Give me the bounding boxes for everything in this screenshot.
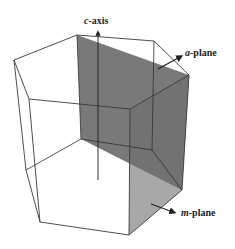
hexagonal-prism-diagram: c-axis a-plane m-plane xyxy=(0,0,235,249)
a-plane-label: a-plane xyxy=(185,47,217,58)
c-axis-label: c-axis xyxy=(84,15,109,26)
m-plane-label: m-plane xyxy=(181,207,216,218)
